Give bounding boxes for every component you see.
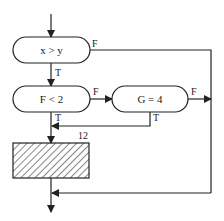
block-label: 12 (78, 130, 88, 141)
node-label: F < 2 (40, 93, 63, 105)
edge-cond3-true (52, 112, 150, 126)
node-label: x > y (40, 44, 63, 56)
edge-label-f: F (92, 38, 98, 49)
edge-label-t: T (153, 112, 159, 123)
flowchart: x > y F T F < 2 F G = 4 F T T 12 (0, 0, 224, 221)
edge-label-t: T (55, 67, 61, 78)
edge-label-f: F (191, 86, 197, 97)
node-label: G = 4 (137, 93, 163, 105)
node-g-eq-4: G = 4 (112, 86, 188, 112)
edge-label-t: T (55, 112, 61, 123)
node-f-lt-2: F < 2 (13, 86, 90, 112)
node-x-gt-y: x > y (13, 37, 90, 63)
edge-label-f: F (93, 86, 99, 97)
